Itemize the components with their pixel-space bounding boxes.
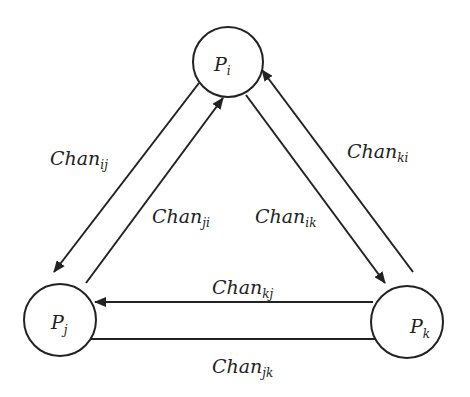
label-chan-ik: Chanik [255, 205, 316, 230]
edge-ji [86, 98, 223, 283]
node-pk: Pk [371, 286, 443, 358]
node-pj: Pj [24, 284, 96, 356]
node-pi: Pi [193, 27, 263, 97]
edge-ki [262, 70, 413, 272]
label-chan-jk: Chanjk [212, 355, 273, 380]
channel-diagram: Pi Pj Pk Chanij Chanji Chanik Chanki Cha… [0, 0, 470, 397]
label-chan-kj: Chankj [212, 276, 274, 301]
node-pj-base: P [50, 311, 65, 333]
node-pk-base: P [409, 315, 424, 337]
node-pi-base: P [213, 53, 228, 75]
edge-ij [54, 83, 199, 272]
label-chan-ki: Chanki [347, 140, 409, 165]
edge-ik [246, 95, 385, 283]
label-chan-ji: Chanji [152, 205, 210, 230]
label-chan-ij: Chanij [50, 147, 108, 172]
node-pk-sub: k [423, 327, 430, 341]
node-pi-sub: i [227, 64, 231, 78]
